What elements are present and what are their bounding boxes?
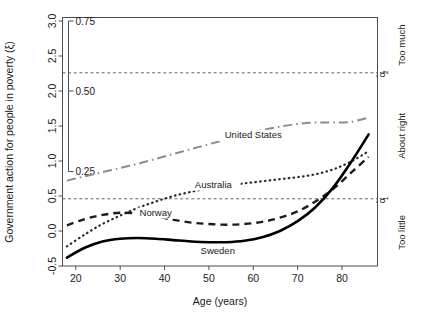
y-tick-label: 1.0	[46, 154, 58, 169]
y-tick-label: 0.0	[46, 224, 58, 239]
x-tick-label: 20	[70, 272, 82, 284]
y-tick-label: 2.5	[46, 49, 58, 64]
y-tick-label: -0.5	[46, 257, 58, 275]
secondary-tick-label: 0.75	[76, 16, 96, 27]
x-tick-label: 50	[203, 272, 215, 284]
chart-root: Government action for people in poverty …	[0, 0, 421, 317]
x-tick-label: 70	[292, 272, 304, 284]
right-category-labels: Too muchAbout rightToo little	[397, 25, 408, 250]
y-tick-label: 2.0	[46, 84, 58, 99]
series-label-australia: Australia	[195, 179, 233, 190]
series-label-united-states: United States	[225, 129, 282, 140]
x-axis-title: Age (years)	[193, 295, 247, 307]
y-tick-label: 3.0	[46, 14, 58, 29]
y-axis-title: Government action for people in poverty …	[3, 41, 15, 242]
category-label-about-right: About right	[397, 112, 408, 158]
x-tick-label: 80	[336, 272, 348, 284]
category-label-too-little: Too little	[397, 215, 408, 250]
y-tick-label: 0.5	[46, 189, 58, 204]
government-action-age-line-chart: Government action for people in poverty …	[0, 0, 421, 317]
series-label-norway: Norway	[140, 207, 172, 218]
category-label-too-much: Too much	[397, 25, 408, 66]
series-label-sweden: Sweden	[201, 245, 235, 256]
x-tick-label: 30	[114, 272, 126, 284]
y-tick-label: 1.5	[46, 119, 58, 134]
x-tick-label: 60	[247, 272, 259, 284]
secondary-tick-label: 0.50	[76, 86, 96, 97]
x-tick-label: 40	[159, 272, 171, 284]
